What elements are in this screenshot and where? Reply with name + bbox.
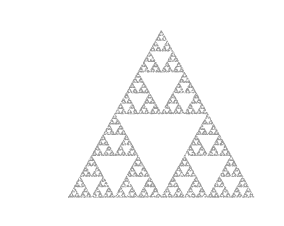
sierpinski-triangle-figure: [0, 0, 284, 226]
figure-page: [0, 0, 284, 226]
